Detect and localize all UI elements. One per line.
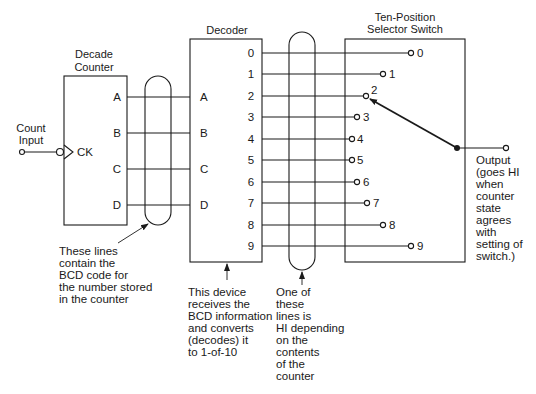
bcd-annotation-line: BCD code for	[59, 269, 128, 281]
clock-label: CK	[77, 146, 93, 158]
output-note-line: when	[475, 178, 504, 190]
decoder-annotation-line: BCD information	[188, 310, 272, 322]
count-input-terminal-icon	[20, 150, 25, 155]
switch-position-3-label: 3	[363, 111, 369, 123]
switch-terminal-9-icon[interactable]	[408, 243, 413, 248]
counter-title-line2: Counter	[74, 61, 113, 73]
decoder-title: Decoder	[206, 24, 248, 36]
decoder-input-b-label: B	[200, 127, 208, 139]
bcd-bus-bundle-outline	[145, 76, 171, 225]
decoder-input-d-label: D	[200, 199, 208, 211]
output-note-line: state	[476, 202, 501, 214]
one-of-annotation-line: lines is	[276, 310, 311, 322]
switch-position-5-label: 5	[357, 154, 363, 166]
bcd-annotation-arrow	[118, 224, 148, 243]
counter-output-d-label: D	[113, 199, 121, 211]
decoder-annotation-line: to 1-of-10	[188, 346, 237, 358]
switch-position-0-label: 0	[417, 47, 423, 59]
output-note: Output (goes HI when counter state agree…	[475, 154, 523, 262]
switch-terminal-4-icon[interactable]	[349, 136, 354, 141]
output-note-line: (goes HI	[476, 166, 519, 178]
annotation-one-of-lines: One of these lines is HI depending on th…	[276, 272, 344, 382]
decade-counter-decoder-diagram: Decade Counter A B C D CK Count Input De…	[0, 0, 536, 394]
output-note-line: with	[475, 226, 496, 238]
counter-title-line1: Decade	[75, 48, 113, 60]
switch-terminal-7-icon[interactable]	[364, 200, 369, 205]
bcd-annotation-line: contain the	[59, 257, 115, 269]
decoded-bus	[262, 32, 409, 270]
decoder-output-3-label: 3	[248, 111, 254, 123]
counter-output-b-label: B	[113, 127, 121, 139]
switch-terminal-5-icon[interactable]	[349, 157, 354, 162]
decoder-output-0-label: 0	[248, 47, 254, 59]
switch-position-1-label: 1	[389, 68, 395, 80]
decoder-output-7-label: 7	[248, 197, 254, 209]
one-of-annotation-line: on the	[276, 334, 308, 346]
one-of-annotation-line: One of	[276, 286, 311, 298]
one-of-annotation-line: HI depending	[276, 322, 344, 334]
decoder-output-5-label: 5	[248, 154, 254, 166]
decoder-output-2-label: 2	[248, 90, 254, 102]
count-input-line1: Count	[16, 122, 45, 134]
output-note-line: counter	[476, 190, 515, 202]
bcd-annotation-line: the number stored	[59, 281, 152, 293]
decade-counter: Decade Counter A B C D CK	[57, 48, 128, 225]
one-of-annotation-line: contents	[276, 346, 320, 358]
one-of-annotation-line: counter	[276, 370, 315, 382]
decoded-bus-bundle-outline	[289, 32, 315, 270]
output-note-line: setting of	[476, 238, 523, 250]
switch-position-8-label: 8	[389, 219, 395, 231]
clock-inversion-bubble-icon	[57, 149, 64, 156]
output-note-line: Output	[476, 154, 511, 166]
decoder-output-8-label: 8	[248, 219, 254, 231]
switch-position-9-label: 9	[417, 240, 423, 252]
switch-terminal-1-icon[interactable]	[380, 71, 385, 76]
decoder-output-6-label: 6	[248, 176, 254, 188]
switch-terminal-0-icon[interactable]	[408, 50, 413, 55]
decoder-input-c-label: C	[200, 163, 208, 175]
switch-terminal-6-icon[interactable]	[354, 179, 359, 184]
switch-box	[345, 39, 465, 262]
count-input: Count Input	[16, 122, 56, 155]
counter-output-a-label: A	[113, 91, 121, 103]
output-note-line: switch.)	[476, 250, 515, 262]
decoder: Decoder A B C D 0 1 2 3 4 5 6 7 8 9	[190, 24, 262, 262]
output-note-line: agrees	[476, 214, 511, 226]
switch-position-7-label: 7	[373, 197, 379, 209]
bcd-annotation-line: in the counter	[59, 293, 129, 305]
clock-triangle-icon	[64, 145, 73, 159]
decoder-annotation-line: (decodes) it	[188, 334, 249, 346]
switch-position-6-label: 6	[363, 176, 369, 188]
one-of-annotation-line: these	[276, 298, 304, 310]
annotation-decoder-device: This device receives the BCD information…	[188, 264, 272, 358]
decoder-annotation-line: This device	[188, 286, 246, 298]
switch-position-4-label: 4	[357, 133, 364, 145]
decoder-output-4-label: 4	[248, 133, 255, 145]
decoder-annotation-line: and converts	[188, 322, 254, 334]
one-of-annotation-line: of the	[276, 358, 305, 370]
decoder-output-9-label: 9	[248, 240, 254, 252]
decoder-output-1-label: 1	[248, 68, 254, 80]
counter-output-c-label: C	[113, 163, 121, 175]
output-terminal-icon	[503, 145, 508, 150]
count-input-line2: Input	[19, 134, 43, 146]
switch-position-2-label: 2	[371, 84, 377, 96]
bcd-bus	[127, 76, 190, 225]
switch-terminal-2-icon[interactable]	[363, 93, 368, 98]
switch-title-line2: Selector Switch	[367, 23, 443, 35]
switch-terminal-3-icon[interactable]	[354, 114, 359, 119]
decoder-input-a-label: A	[200, 91, 208, 103]
switch-terminal-8-icon[interactable]	[380, 222, 385, 227]
switch-wiper-arm[interactable]	[370, 99, 457, 148]
switch-title-line1: Ten-Position	[375, 11, 436, 23]
decoder-annotation-line: receives the	[188, 298, 250, 310]
annotation-bcd-lines: These lines contain the BCD code for the…	[59, 224, 152, 305]
bcd-annotation-line: These lines	[59, 245, 118, 257]
